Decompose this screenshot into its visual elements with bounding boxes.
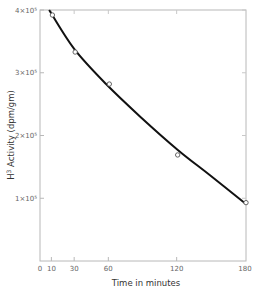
y-axis-title-units: (dpm/gm) [6,90,16,132]
x-tick-label: 30 [70,265,79,273]
data-point [50,13,54,17]
x-tick-label: 120 [170,265,183,273]
y-tick-label: 1×10⁵ [15,195,37,203]
x-axis-ticks: 0103060120180 [38,10,252,273]
decay-chart: 0103060120180 1×10⁵2×10⁵3×10⁵4×10⁵ Time … [0,0,255,291]
data-point [244,200,248,204]
y-axis-title: H3 Activity (dpm/gm) [5,90,16,180]
data-point [73,50,77,54]
fitted-curve [49,10,245,203]
data-point [175,153,179,157]
x-axis-title: Time in minutes [111,278,181,288]
x-tick-label: 0 [38,265,42,273]
y-tick-label: 2×10⁵ [15,132,37,140]
y-tick-label: 4×10⁵ [15,7,37,15]
y-axis-title-main: Activity [6,135,16,167]
plot-frame [40,10,246,261]
y-tick-label: 3×10⁵ [15,69,37,77]
data-points [50,13,248,205]
y-axis-ticks: 1×10⁵2×10⁵3×10⁵4×10⁵ [15,7,246,203]
x-tick-label: 10 [47,265,56,273]
data-point [107,82,111,86]
x-tick-label: 180 [238,265,251,273]
x-tick-label: 60 [104,265,113,273]
